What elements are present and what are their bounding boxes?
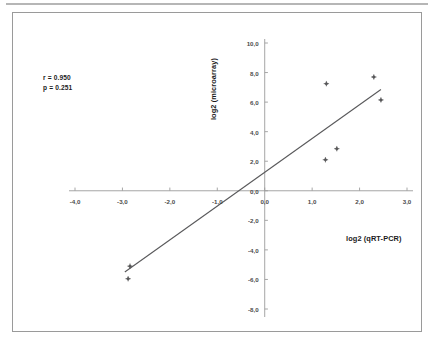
y-axis-tick-label: -2,0	[248, 217, 259, 224]
x-axis-tick-label: 0,0	[260, 198, 269, 205]
y-axis-tick-label: -4,0	[248, 246, 259, 253]
y-axis-tick-label: 6,0	[250, 99, 259, 106]
correlation-coefficient-label: r = 0.950	[43, 73, 72, 83]
chart-frame: r = 0.950 p = 0.251 log2 (qRT-PCR) log2 …	[12, 12, 422, 332]
x-axis-tick-label: 1,0	[308, 198, 317, 205]
y-axis-title: log2 (microarray)	[209, 58, 218, 120]
x-axis-tick-label: -3,0	[117, 198, 128, 205]
data-point	[323, 157, 328, 162]
plot-canvas	[13, 13, 423, 333]
y-axis-tick-label: -6,0	[248, 276, 259, 283]
y-axis-tick-label: 10,0	[247, 40, 259, 47]
x-axis-tick-label: 3,0	[403, 198, 412, 205]
figure-scatter-plot: r = 0.950 p = 0.251 log2 (qRT-PCR) log2 …	[0, 0, 434, 344]
top-divider-rule	[6, 3, 428, 5]
statistics-annotation: r = 0.950 p = 0.251	[43, 73, 72, 92]
x-axis-tick-label: -1,0	[212, 198, 223, 205]
data-point	[371, 74, 376, 79]
y-axis-tick-label: -8,0	[248, 306, 259, 313]
trendline	[125, 90, 381, 273]
x-axis-title: log2 (qRT-PCR)	[346, 234, 402, 243]
y-axis-tick-label: 2,0	[250, 158, 259, 165]
y-axis-tick-label: 4,0	[250, 128, 259, 135]
data-point	[324, 81, 329, 86]
data-point	[125, 276, 130, 281]
p-value-label: p = 0.251	[43, 83, 72, 93]
plot-area	[13, 13, 423, 333]
y-axis-tick-label: 0,0	[250, 187, 259, 194]
x-axis-tick-label: -4,0	[70, 198, 81, 205]
y-axis-tick-label: 8,0	[250, 69, 259, 76]
x-axis-tick-label: -2,0	[165, 198, 176, 205]
data-point	[334, 146, 339, 151]
x-axis-tick-label: 2,0	[355, 198, 364, 205]
data-point	[378, 97, 383, 102]
data-point	[127, 263, 132, 268]
